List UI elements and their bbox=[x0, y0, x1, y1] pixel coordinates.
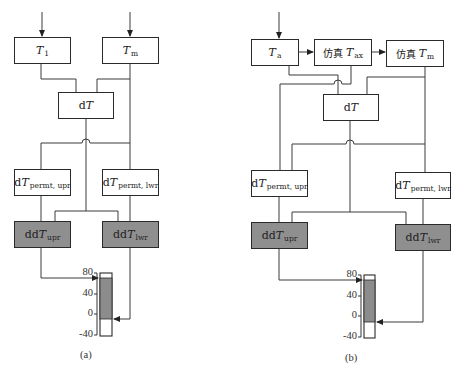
gauge-a-tick-40: 40 bbox=[71, 287, 93, 298]
box-dt-permt-lwr: dTpermt, lwr bbox=[102, 169, 159, 196]
box-sim-tax: 仿真Tax bbox=[314, 39, 372, 66]
box-label: T bbox=[36, 44, 43, 57]
box-dt-b: dT bbox=[323, 94, 379, 121]
box-label: T bbox=[21, 176, 28, 189]
box-sim-tm: 仿真Tm bbox=[386, 40, 444, 67]
gauge-a-tick-80: 80 bbox=[71, 266, 93, 277]
box-prefix: d bbox=[251, 177, 258, 190]
gauge-b-tick-0: 0 bbox=[335, 309, 357, 320]
gauge-b-tick-minus40: -40 bbox=[335, 330, 357, 341]
box-prefix: d bbox=[14, 176, 21, 189]
gauge-b-tick-40: 40 bbox=[335, 289, 357, 300]
caption-b: (b) bbox=[345, 352, 357, 363]
gauge-a-tick-0: 0 bbox=[71, 307, 93, 318]
box-ddt-upr-b: ddTupr bbox=[251, 222, 308, 249]
box-subscript: ax bbox=[354, 51, 363, 60]
box-label: T bbox=[402, 179, 409, 192]
gauge-b bbox=[358, 275, 375, 338]
box-label: T bbox=[123, 44, 130, 57]
box-subscript: lwr bbox=[136, 233, 148, 242]
caption-a: (a) bbox=[80, 349, 92, 360]
box-prefix: dd bbox=[25, 228, 39, 241]
box-subscript: m bbox=[427, 52, 434, 61]
box-ddt-lwr-b: ddTlwr bbox=[395, 224, 451, 251]
box-label: T bbox=[420, 231, 427, 244]
gauge-b-tick-80: 80 bbox=[335, 268, 357, 279]
box-label: T bbox=[346, 46, 353, 59]
box-ddt-upr: ddTupr bbox=[14, 221, 71, 248]
box-label: T bbox=[110, 176, 117, 189]
box-label: T bbox=[127, 228, 134, 241]
box-label: T bbox=[276, 229, 283, 242]
gauge-a bbox=[94, 273, 112, 336]
box-ddt-lwr: ddTlwr bbox=[102, 221, 159, 248]
diagram-canvas: T1 Tm dT dTpermt, upr dTpermt, lwr ddTup… bbox=[0, 0, 460, 376]
box-subscript: 1 bbox=[44, 49, 49, 58]
box-t1: T1 bbox=[14, 37, 71, 64]
box-label: T bbox=[351, 101, 358, 114]
box-dt-permt-upr-b: dTpermt, upr bbox=[251, 170, 308, 197]
box-prefix: dd bbox=[406, 231, 420, 244]
box-tm: Tm bbox=[102, 37, 159, 64]
box-prefix: dd bbox=[113, 228, 127, 241]
box-label: T bbox=[419, 47, 426, 60]
box-subscript: upr bbox=[47, 233, 60, 242]
box-label: T bbox=[39, 228, 46, 241]
box-subscript: permt, lwr bbox=[411, 184, 451, 193]
box-subscript: m bbox=[131, 49, 138, 58]
box-ta: Ta bbox=[251, 39, 299, 66]
box-dt: dT bbox=[58, 92, 114, 119]
box-label: T bbox=[86, 99, 93, 112]
box-prefix: d bbox=[103, 176, 110, 189]
box-dt-permt-upr: dTpermt, upr bbox=[14, 169, 71, 196]
box-prefix: d bbox=[395, 179, 402, 192]
box-prefix: d bbox=[344, 101, 351, 114]
box-subscript: permt, upr bbox=[30, 181, 71, 190]
box-subscript: permt, lwr bbox=[118, 181, 158, 190]
box-prefix: 仿真 bbox=[396, 46, 416, 61]
box-label: T bbox=[269, 46, 276, 59]
box-prefix: d bbox=[79, 99, 86, 112]
box-subscript: upr bbox=[284, 234, 297, 243]
box-prefix: dd bbox=[262, 229, 276, 242]
box-label: T bbox=[258, 177, 265, 190]
box-subscript: lwr bbox=[428, 236, 440, 245]
box-subscript: permt, upr bbox=[267, 182, 308, 191]
gauge-a-tick-minus40: -40 bbox=[71, 328, 93, 339]
box-dt-permt-lwr-b: dTpermt, lwr bbox=[395, 172, 451, 199]
box-subscript: a bbox=[277, 51, 281, 60]
box-prefix: 仿真 bbox=[323, 45, 343, 60]
